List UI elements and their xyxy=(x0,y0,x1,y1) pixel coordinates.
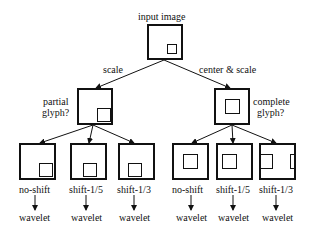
glyph-square xyxy=(222,154,237,169)
output-label: wavelet xyxy=(218,212,249,223)
output-label: wavelet xyxy=(71,212,102,223)
output-label: wavelet xyxy=(176,212,207,223)
glyph-square xyxy=(83,163,97,177)
complete-no-shift-box xyxy=(172,143,209,180)
partial-glyph-box xyxy=(77,88,113,125)
complete-label-2: glyph? xyxy=(257,107,284,118)
partial-shift-1-5-box xyxy=(70,143,107,180)
root-label: input image xyxy=(138,11,186,22)
complete-shift-1-3-box xyxy=(259,143,296,180)
edge-label-scale: scale xyxy=(103,64,123,75)
glyph-square xyxy=(167,44,177,54)
complete-shift-1-5-box xyxy=(216,143,253,180)
child-label: shift-1/5 xyxy=(69,184,103,195)
child-label: shift-1/5 xyxy=(216,184,250,195)
glyph-square xyxy=(39,163,53,177)
glyph-square xyxy=(128,163,142,177)
glyph-square-wrap xyxy=(290,154,295,169)
input-image-box xyxy=(147,24,183,60)
child-label: shift-1/3 xyxy=(259,184,293,195)
child-label: no-shift xyxy=(19,184,50,195)
glyph-square xyxy=(225,99,240,114)
partial-no-shift-box xyxy=(19,143,56,180)
partial-label-1: partial xyxy=(43,96,69,107)
output-label: wavelet xyxy=(19,212,50,223)
glyph-square xyxy=(260,154,273,169)
partial-shift-1-3-box xyxy=(118,143,155,180)
complete-glyph-box xyxy=(214,88,250,125)
glyph-square xyxy=(97,108,111,122)
partial-label-2: glyph? xyxy=(42,107,69,118)
output-label: wavelet xyxy=(262,212,293,223)
glyph-square xyxy=(183,154,198,169)
child-label: no-shift xyxy=(172,184,203,195)
output-label: wavelet xyxy=(119,212,150,223)
complete-label-1: complete xyxy=(253,96,290,107)
edge-label-center-scale: center & scale xyxy=(199,64,256,75)
child-label: shift-1/3 xyxy=(117,184,151,195)
